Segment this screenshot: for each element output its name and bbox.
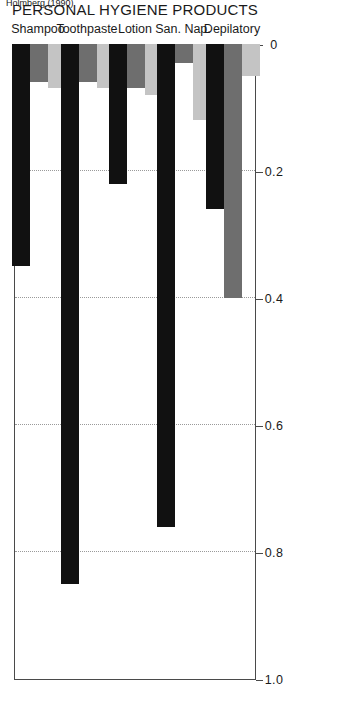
bar [242,44,260,76]
category-label: Toothpaste [56,22,117,36]
bar [79,44,97,82]
bar [206,44,224,209]
rotated-figure: Thefts per Week 1.00.80.60.40.20 PERSONA… [0,0,364,728]
chart-canvas: Thefts per Week 1.00.80.60.40.20 PERSONA… [0,0,364,728]
bar [12,44,30,266]
bar [224,44,242,298]
plot-area [14,45,256,680]
value-axis-tick-label: 0.8 [265,546,283,560]
value-axis-tick-label: 1.0 [265,673,283,687]
bar-group [61,44,115,679]
category-label: San. Nap. [156,22,212,36]
bar [30,44,48,82]
bar-group [206,44,260,679]
bar-group [157,44,211,679]
value-axis-tick-label: 0.6 [265,419,283,433]
source-note: Adapted from Carter & Holmberg (1990) [6,0,98,9]
bar [127,44,145,88]
value-axis: Thefts per Week 1.00.80.60.40.20 [256,45,296,680]
bar [61,44,79,584]
bar [109,44,127,184]
bar-group [12,44,66,679]
category-label: Lotion [118,22,152,36]
bar [157,44,175,527]
bar [175,44,193,63]
category-label: Depilatory [204,22,260,36]
value-axis-tick-label: 0.4 [265,292,283,306]
value-axis-tick-label: 0.2 [265,165,283,179]
value-axis-tick-label: 0 [270,38,277,52]
bar-group [109,44,163,679]
tick-mark [256,680,263,681]
